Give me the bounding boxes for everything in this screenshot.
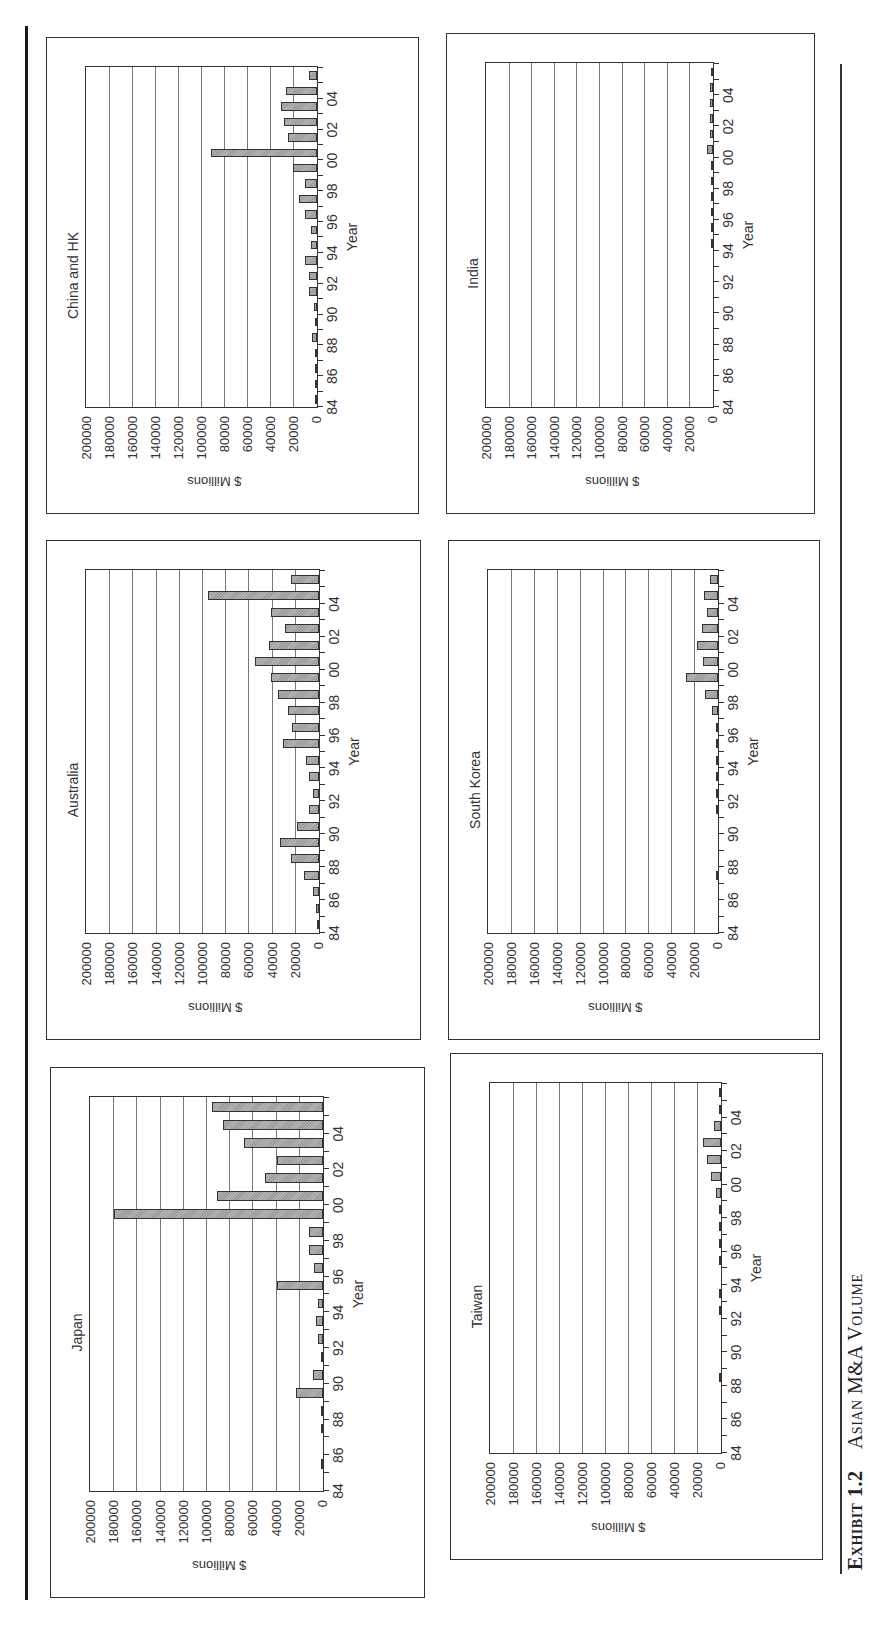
bar-87 [321,1424,323,1434]
bar-97 [309,1245,323,1255]
y-tick-label: 80000 [621,1462,636,1498]
x-tick-mark [324,1383,329,1384]
x-tick-mark [719,669,724,670]
bar-89 [280,838,319,847]
bar-86 [315,364,317,372]
x-tick-mark [714,281,719,282]
x-tick-mark [714,157,719,158]
y-tick-label: 180000 [506,1462,521,1505]
y-tick-label: 200000 [83,1500,98,1543]
x-tick-label: 04 [728,1110,744,1126]
x-tick-label: 94 [330,1305,346,1321]
bar-00 [217,1191,323,1201]
bar-99 [271,673,319,682]
bar-88 [719,1373,721,1382]
x-tick-label: 98 [326,695,342,711]
x-tick-mark [722,1435,727,1436]
x-tick-mark [722,1117,727,1118]
x-tick-mark [719,899,724,900]
x-tick-mark [320,603,325,604]
x-tick-mark [324,1454,329,1455]
bar-93 [309,772,319,781]
x-tick-mark [719,718,724,719]
x-tick-label: 96 [324,214,340,230]
x-tick-label: 90 [725,826,741,842]
bar-89 [315,318,317,326]
x-tick-mark [722,1167,727,1168]
y-tick-label: 40000 [263,416,278,452]
gridline [651,1083,652,1453]
y-tick-label: 80000 [618,942,633,978]
exhibit-caption: Exhibit 1.2 Asian M&A Volume [844,1273,867,1570]
x-tick-mark [722,1318,727,1319]
x-tick-label: 04 [330,1126,346,1142]
gridline [605,1083,606,1453]
x-tick-mark [722,1284,727,1285]
bar-94 [306,756,319,765]
x-tick-label: 92 [324,276,340,292]
x-tick-label: 02 [725,629,741,645]
gridline [689,63,690,407]
x-tick-mark [722,1234,727,1235]
x-tick-label: 98 [728,1210,744,1226]
bar-00 [703,657,718,666]
x-tick-label: 94 [728,1277,744,1293]
x-tick-mark [719,883,724,884]
bar-03 [707,608,718,617]
bar-96 [314,1263,323,1273]
x-tick-mark [320,899,325,900]
x-tick-mark [722,1351,727,1352]
x-tick-mark [719,751,724,752]
x-tick-mark [714,266,719,267]
x-tick-mark [714,125,719,126]
x-tick-mark [722,1133,727,1134]
x-tick-mark [318,206,323,207]
gridline [272,570,273,933]
y-axis-label: $ Millions [559,474,639,489]
x-tick-mark [324,1133,329,1134]
chart-panel-australia: Australia2000001800001600001400001200001… [46,540,421,1040]
y-tick-label: 200000 [479,416,494,459]
gridline [628,1083,629,1453]
gridline [557,570,558,933]
gridline [576,63,577,407]
bar-02 [285,624,319,633]
bar-02 [277,1156,323,1166]
bar-01 [288,133,317,141]
y-tick-label: 40000 [268,1500,283,1536]
gridline [622,63,623,407]
bar-88 [312,333,317,341]
chart-panel-south-korea: South Korea20000018000016000014000012000… [448,540,820,1040]
x-tick-label: 96 [330,1269,346,1285]
x-tick-mark [722,1217,727,1218]
x-tick-label: 84 [324,399,340,415]
x-tick-mark [714,312,719,313]
y-tick-label: 100000 [195,942,210,985]
y-tick-label: 0 [713,1462,728,1469]
y-tick-label: 60000 [241,942,256,978]
x-tick-mark [714,94,719,95]
x-tick-mark [318,159,323,160]
x-tick-mark [722,1251,727,1252]
x-tick-mark [324,1258,329,1259]
gridline [247,67,248,407]
bar-92 [313,789,319,798]
x-tick-label: 00 [725,662,741,678]
bar-90 [314,303,317,311]
gridline [155,67,156,407]
bar-92 [719,1306,721,1315]
x-tick-mark [719,800,724,801]
bar-99 [686,673,718,682]
bar-94 [318,1299,323,1309]
y-tick-label: 120000 [572,942,587,985]
x-tick-label: 84 [330,1483,346,1499]
bar-95 [277,1281,323,1291]
bar-91 [716,805,718,814]
y-tick-label: 60000 [637,416,652,452]
x-tick-mark [318,344,323,345]
bar-91 [309,287,317,295]
bar-90 [297,822,319,831]
bar-00 [255,657,319,666]
y-tick-label: 100000 [595,942,610,985]
x-tick-mark [714,235,719,236]
